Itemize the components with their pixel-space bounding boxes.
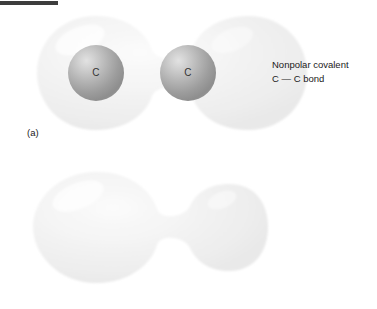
caption-bond-formula-a: C — C bond [272, 72, 349, 86]
panel-nonpolar-covalent: C C Nonpolar covalent C — C bond (a) [0, 0, 377, 155]
panel-letter-a: (a) [27, 127, 39, 138]
electron-cloud-oh [0, 155, 377, 309]
panel-polar-covalent: O H Polar covalent O — H bond δ− δ+ (b) [0, 155, 377, 309]
atom-label-carbon-left: C [92, 68, 99, 78]
atom-carbon-right: C [160, 45, 216, 101]
caption-nonpolar-covalent: Nonpolar covalent C — C bond [272, 58, 349, 85]
atom-carbon-left: C [68, 45, 124, 101]
atom-label-carbon-right: C [184, 68, 191, 78]
caption-bond-type-a: Nonpolar covalent [272, 58, 349, 72]
